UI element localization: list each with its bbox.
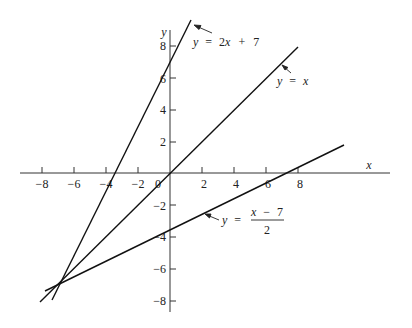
x-tick-label: −8 [36,177,49,191]
eq1-x: x [224,35,231,49]
x-tick-label: −6 [68,177,81,191]
y-tick-label: −2 [153,199,166,213]
eq-label-2x-plus-7: y = 2x + 7 [192,35,259,49]
eq-label-y-x: y = x [276,74,309,88]
y-tick-label: −6 [153,262,166,276]
eq-label-x-minus-7-over-2: y = x − 7 2 [221,205,284,237]
line-y-x-minus-7-over-2 [45,145,344,291]
eq1-const: 7 [253,35,259,49]
svg-text:y =: y = [221,213,241,227]
x-tick-label: 4 [233,177,239,191]
x-tick-label: 8 [297,177,303,191]
x-tick-label: 6 [265,177,271,191]
x-tick-label: 2 [201,177,207,191]
y-tick-label: 2 [160,135,166,149]
eq3-equals: = [234,213,241,227]
x-tick-label: −4 [100,177,113,191]
line-y-x [40,47,298,302]
eq3-y: y [221,213,228,227]
x-axis-label: x [365,158,372,172]
eq2-x: x [302,74,309,88]
annotation-arrows [194,25,291,220]
y-tick-label: 6 [160,72,166,86]
y-tick-label: 4 [160,103,166,117]
y-tick-label: 8 [160,39,166,53]
eq3-numerator: x − 7 [250,205,283,219]
eq1-plus: + [238,35,245,49]
eq3-denominator: 2 [264,223,270,237]
x-tick-label: −2 [132,177,145,191]
y-tick-label: −8 [153,294,166,308]
svg-text:y = x: y = x [276,74,309,88]
eq1-y: y [192,35,199,49]
y-axis-label: y [160,25,167,39]
eq2-equals: = [289,74,296,88]
eq1-equals: = [205,35,212,49]
eq2-y: y [276,74,283,88]
chart-canvas: −8 −6 −4 −2 0 2 4 6 8 8 6 4 2 −2 −4 −6 −… [0,0,412,328]
svg-text:y = 2x +: y = 2x + 7 [192,35,259,49]
